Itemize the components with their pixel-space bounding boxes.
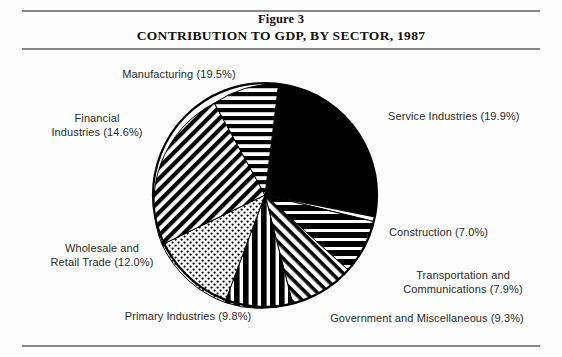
label-primary-industries: Primary Industries (9.8%) bbox=[78, 310, 298, 324]
figure-page: Figure 3 CONTRIBUTION TO GDP, BY SECTOR,… bbox=[0, 0, 562, 357]
label-manufacturing: Manufacturing (19.5%) bbox=[84, 68, 274, 82]
pie-chart-area: Manufacturing (19.5%) Financial Industri… bbox=[0, 52, 562, 342]
pie-chart bbox=[0, 52, 562, 342]
bottom-rule bbox=[22, 345, 540, 347]
figure-number: Figure 3 bbox=[0, 12, 562, 27]
label-government-miscellaneous: Government and Miscellaneous (9.3%) bbox=[300, 312, 554, 326]
figure-title: CONTRIBUTION TO GDP, BY SECTOR, 1987 bbox=[0, 27, 562, 44]
label-wholesale-retail-trade: Wholesale and Retail Trade (12.0%) bbox=[22, 242, 182, 269]
label-transportation-communications: Transportation and Communications (7.9%) bbox=[368, 269, 558, 296]
title-underline-rule bbox=[22, 48, 540, 50]
label-service-industries: Service Industries (19.9%) bbox=[388, 110, 558, 124]
label-construction: Construction (7.0%) bbox=[389, 226, 559, 240]
label-financial-industries: Financial Industries (14.6%) bbox=[22, 112, 172, 139]
pie-slice-service-industries[interactable] bbox=[265, 84, 377, 217]
figure-title-block: Figure 3 CONTRIBUTION TO GDP, BY SECTOR,… bbox=[0, 12, 562, 44]
